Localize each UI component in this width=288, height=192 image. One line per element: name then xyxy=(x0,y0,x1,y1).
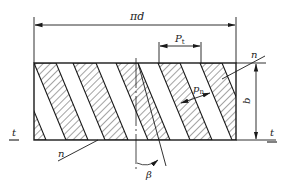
circumference-dimension: πd xyxy=(34,10,236,63)
transverse-section-right-label: t xyxy=(270,127,275,138)
tooth-strips xyxy=(0,63,254,140)
face-width-label: b xyxy=(241,98,252,104)
normal-section-top-label: n xyxy=(251,49,257,60)
helix-angle-label: β xyxy=(145,169,152,180)
helical-development-diagram: πd Pt pn b n n t t β xyxy=(0,0,288,192)
transverse-section-left-label: t xyxy=(12,127,17,138)
normal-pitch-label: pn xyxy=(193,83,204,96)
circumference-label: πd xyxy=(129,10,144,23)
transverse-pitch-label: Pt xyxy=(174,33,185,46)
transverse-pitch-dimension: Pt xyxy=(159,33,201,63)
tooth-strip xyxy=(116,63,170,140)
normal-section-bottom-label: n xyxy=(58,148,64,159)
